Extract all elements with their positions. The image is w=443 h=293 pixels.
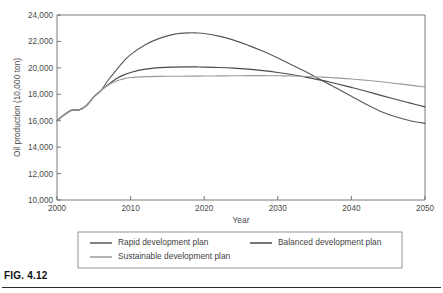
figure-caption: FIG. 4.12 bbox=[4, 270, 48, 281]
series-line bbox=[57, 76, 425, 121]
legend-label: Sustainable development plan bbox=[118, 251, 231, 261]
legend-label: Balanced development plan bbox=[278, 237, 382, 247]
y-axis-tick-label: 22,000 bbox=[28, 37, 53, 46]
caption-divider bbox=[2, 287, 441, 288]
y-axis-tick-label: 14,000 bbox=[28, 143, 53, 152]
x-axis-tick-label: 2000 bbox=[48, 204, 67, 213]
x-axis-tick-label: 2030 bbox=[269, 204, 288, 213]
chart-legend: Rapid development planBalanced developme… bbox=[78, 232, 402, 268]
x-axis-tick-label: 2020 bbox=[195, 204, 214, 213]
y-axis-tick-label: 20,000 bbox=[28, 64, 53, 73]
y-axis-tick-label: 18,000 bbox=[28, 90, 53, 99]
oil-production-line-chart: 10,00012,00014,00016,00018,00020,00022,0… bbox=[0, 0, 443, 293]
y-axis-title: Oil production (10,000 ton) bbox=[12, 58, 22, 157]
x-axis-tick-label: 2050 bbox=[416, 204, 435, 213]
y-axis-tick-label: 16,000 bbox=[28, 117, 53, 126]
series-line bbox=[57, 33, 425, 124]
legend-label: Rapid development plan bbox=[118, 237, 209, 247]
x-axis-title: Year bbox=[233, 215, 250, 225]
figure-container: 10,00012,00014,00016,00018,00020,00022,0… bbox=[0, 0, 443, 293]
chart-axes: 10,00012,00014,00016,00018,00020,00022,0… bbox=[12, 11, 435, 225]
y-axis-tick-label: 12,000 bbox=[28, 170, 53, 179]
y-axis-tick-label: 24,000 bbox=[28, 11, 53, 20]
x-axis-tick-label: 2040 bbox=[342, 204, 361, 213]
chart-series bbox=[57, 33, 425, 124]
x-axis-tick-label: 2010 bbox=[121, 204, 140, 213]
